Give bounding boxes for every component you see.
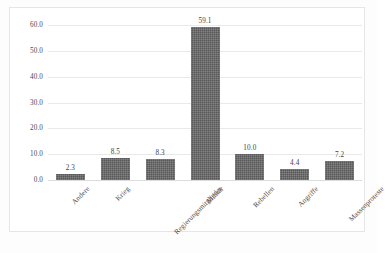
bars-layer: 2.38.58.359.110.04.47.2 bbox=[48, 25, 362, 180]
x-label-slot: Regierungsmitglieder bbox=[138, 180, 183, 240]
bar-value-label: 7.2 bbox=[335, 151, 344, 159]
y-axis-tick-label: 50.0 bbox=[30, 47, 43, 55]
bar-slot: 7.2 bbox=[317, 25, 362, 180]
bar-value-label: 8.3 bbox=[155, 149, 164, 157]
chart-frame: 0.010.020.030.040.050.060.0 2.38.58.359.… bbox=[9, 7, 365, 232]
x-axis-tick-label-andere: Andere bbox=[71, 185, 92, 206]
y-axis-tick-label: 60.0 bbox=[30, 21, 43, 29]
bar-value-label: 10.0 bbox=[243, 144, 256, 152]
x-axis-labels: AndereKriegRegierungsmitgliederMilitärRe… bbox=[48, 180, 362, 240]
x-axis-tick-label-milit-r: Militär bbox=[205, 185, 225, 205]
bar-rebellen[interactable]: 10.0 bbox=[235, 154, 264, 180]
y-axis-tick-label: 20.0 bbox=[30, 124, 43, 132]
x-label-slot: Militär bbox=[183, 180, 228, 240]
y-axis-tick-label: 10.0 bbox=[30, 150, 43, 158]
y-axis-tick-label: 30.0 bbox=[30, 99, 43, 107]
x-label-slot: Rebellen bbox=[227, 180, 272, 240]
bar-slot: 8.5 bbox=[93, 25, 138, 180]
bar-value-label: 8.5 bbox=[111, 148, 120, 156]
bar-slot: 2.3 bbox=[48, 25, 93, 180]
bar-massenproteste[interactable]: 7.2 bbox=[325, 161, 354, 180]
x-label-slot: Krieg bbox=[93, 180, 138, 240]
bar-value-label: 4.4 bbox=[290, 159, 299, 167]
bar-krieg[interactable]: 8.5 bbox=[101, 158, 130, 180]
bar-slot: 4.4 bbox=[272, 25, 317, 180]
x-label-slot: Massenproteste bbox=[317, 180, 362, 240]
bar-slot: 8.3 bbox=[138, 25, 183, 180]
bar-milit-r[interactable]: 59.1 bbox=[191, 27, 220, 180]
y-axis-tick-label: 0.0 bbox=[34, 176, 43, 184]
bar-regierungsmitglieder[interactable]: 8.3 bbox=[146, 159, 175, 180]
bar-angriffe[interactable]: 4.4 bbox=[280, 169, 309, 180]
x-axis-tick-label-massenproteste: Massenproteste bbox=[347, 185, 385, 223]
x-label-slot: Angriffe bbox=[272, 180, 317, 240]
x-label-slot: Andere bbox=[48, 180, 93, 240]
x-axis-tick-label-krieg: Krieg bbox=[114, 185, 132, 203]
bar-slot: 59.1 bbox=[183, 25, 228, 180]
bar-value-label: 59.1 bbox=[199, 17, 212, 25]
bar-slot: 10.0 bbox=[227, 25, 272, 180]
bar-value-label: 2.3 bbox=[66, 164, 75, 172]
y-axis-tick-label: 40.0 bbox=[30, 73, 43, 81]
